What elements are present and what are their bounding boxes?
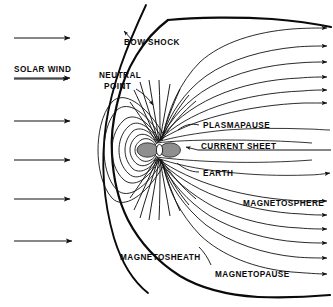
label-bow-shock: BOW SHOCK bbox=[124, 38, 180, 47]
tail-field-arrow-n5 bbox=[302, 90, 327, 91]
magnetosphere-figure: BOW SHOCK NEUTRAL POINT SOLAR WIND PLASM… bbox=[0, 0, 333, 307]
radiation-belts-and-earth bbox=[137, 143, 181, 157]
tail-field-arrow-n1 bbox=[292, 28, 327, 29]
label-magnetopause: MAGNETOPAUSE bbox=[215, 270, 290, 279]
radiation-belt-west bbox=[137, 143, 158, 157]
tail-field-arrow-s4 bbox=[300, 228, 327, 229]
earth-body bbox=[156, 144, 162, 155]
label-earth: EARTH bbox=[203, 169, 233, 178]
current-sheet-arrow bbox=[186, 147, 198, 150]
cusp-line-s3 bbox=[159, 159, 160, 220]
cusp-line-s8 bbox=[134, 159, 157, 210]
magnetopause-leader bbox=[199, 247, 211, 265]
polar-cusp-lines-north bbox=[130, 80, 196, 142]
tail-field-arrow-s1 bbox=[292, 272, 327, 274]
label-magnetosphere: MAGNETOSPHERE bbox=[243, 199, 324, 208]
cusp-line-n3 bbox=[159, 80, 160, 141]
near-tail-line-n1b bbox=[308, 129, 330, 130]
magnetosphere-diagram: BOW SHOCK NEUTRAL POINT SOLAR WIND PLASM… bbox=[0, 0, 333, 307]
label-current-sheet: CURRENT SHEET bbox=[201, 142, 276, 151]
tail-field-arrow-n4 bbox=[300, 77, 327, 78]
tail-field-arrow-s3 bbox=[298, 242, 327, 243]
tail-field-arrow-n2 bbox=[296, 46, 327, 47]
tail-field-line-n1 bbox=[163, 29, 292, 136]
near-tail-field-lines-north bbox=[156, 128, 330, 143]
near-tail-line-s1b bbox=[308, 173, 330, 175]
magnetopause-tail-upper bbox=[168, 18, 331, 27]
tail-field-arrow-s2 bbox=[296, 257, 327, 258]
tail-field-arrow-n3 bbox=[298, 62, 327, 63]
label-solar-wind: SOLAR WIND bbox=[14, 65, 71, 74]
label-neutral: NEUTRAL bbox=[99, 71, 141, 80]
label-plasmapause: PLASMAPAUSE bbox=[203, 121, 270, 130]
near-tail-line-s2 bbox=[156, 157, 312, 162]
cusp-line-n8 bbox=[134, 90, 157, 141]
label-magnetosheath: MAGNETOSHEATH bbox=[120, 253, 201, 262]
label-point: POINT bbox=[104, 82, 131, 91]
tail-field-arrow-s5 bbox=[302, 214, 327, 215]
